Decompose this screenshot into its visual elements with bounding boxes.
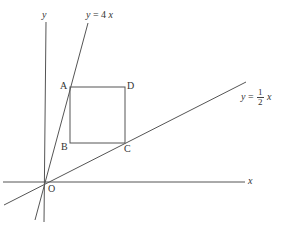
vertex-a-label: A — [60, 81, 67, 91]
line-y-half-x-label-eq: = — [245, 91, 256, 102]
vertex-c-label: C — [124, 144, 131, 154]
vertex-d-label: D — [127, 81, 134, 91]
line-y-half-x-label: y = 12 x — [241, 88, 272, 107]
y-axis-label: y — [42, 10, 46, 20]
line-y-4x-label: y = 4 x — [86, 10, 113, 20]
square-abcd — [70, 87, 125, 143]
origin-label: O — [48, 184, 55, 194]
fraction-denominator: 2 — [258, 98, 263, 107]
diagram-canvas — [0, 0, 288, 229]
line-y-4x-label-eq: = 4 — [90, 9, 108, 20]
y-axis — [44, 22, 46, 222]
line-y-4x-label-var: x — [109, 9, 113, 20]
line-y-half-x-label-var: x — [267, 91, 271, 102]
line-y-4x — [35, 23, 88, 220]
vertex-b-label: B — [61, 142, 68, 152]
x-axis-label: x — [248, 176, 252, 186]
fraction-one-half: 12 — [257, 88, 264, 107]
